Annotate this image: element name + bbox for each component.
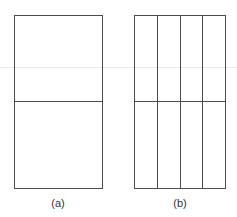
panel-b-label: (b) [165, 197, 195, 209]
panel-b-vertical-divider-1 [157, 16, 158, 188]
panel-a-horizontal-divider [15, 101, 102, 102]
panel-a-rectangle [14, 15, 103, 189]
panel-a-label: (a) [43, 197, 73, 209]
panel-b-vertical-divider-3 [202, 16, 203, 188]
panel-b-rectangle [134, 15, 226, 189]
panel-b-vertical-divider-2 [180, 16, 181, 188]
